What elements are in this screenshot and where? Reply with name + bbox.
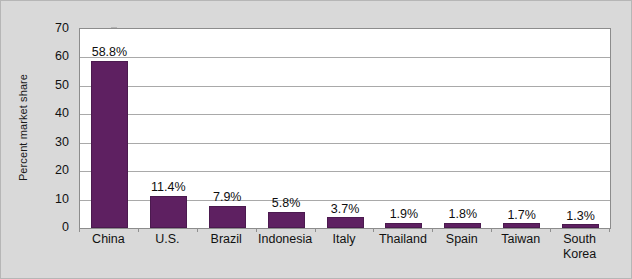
y-axis-tick-labels: 010203040506070 <box>41 28 69 227</box>
bar[interactable] <box>327 217 364 228</box>
bar-series: 58.8%11.4%7.9%5.8%3.7%1.9%1.8%1.7%1.3% <box>80 29 610 228</box>
y-axis-tick-label: 70 <box>41 22 69 35</box>
x-axis-category-label: South Korea <box>550 232 609 274</box>
plot-area: 58.8%11.4%7.9%5.8%3.7%1.9%1.8%1.7%1.3% <box>79 28 611 229</box>
y-axis-tick-label: 40 <box>41 107 69 120</box>
x-axis-category-label: Spain <box>432 232 491 274</box>
bar-value-label: 3.7% <box>331 203 360 216</box>
x-axis-category-label: Thailand <box>373 232 432 274</box>
x-axis-category-label: China <box>79 232 138 274</box>
bar-slot[interactable]: 58.8% <box>80 29 139 228</box>
bar-slot[interactable]: 1.8% <box>433 29 492 228</box>
y-axis-tick-label: 20 <box>41 164 69 177</box>
bar-value-label: 11.4% <box>151 181 186 194</box>
bar[interactable] <box>91 61 128 228</box>
x-axis-category-label: Italy <box>315 232 374 274</box>
bar-value-label: 5.8% <box>272 197 301 210</box>
y-axis-tick-label: 30 <box>41 135 69 148</box>
bar-value-label: 58.8% <box>92 46 127 59</box>
x-axis-category-label: Indonesia <box>256 232 315 274</box>
bar-value-label: 1.7% <box>507 209 536 222</box>
x-axis-category-label: U.S. <box>138 232 197 274</box>
bar-value-label: 1.3% <box>566 210 595 223</box>
x-axis-category-labels: ChinaU.S.BrazilIndonesiaItalyThailandSpa… <box>79 232 609 274</box>
bar[interactable] <box>268 212 305 228</box>
bar-slot[interactable]: 11.4% <box>139 29 198 228</box>
bar[interactable] <box>209 206 246 228</box>
y-axis-tick-label: 50 <box>41 79 69 92</box>
bar-slot[interactable]: 3.7% <box>316 29 375 228</box>
bar[interactable] <box>150 196 187 228</box>
bar-value-label: 7.9% <box>213 191 242 204</box>
bar-slot[interactable]: 1.9% <box>374 29 433 228</box>
bar-value-label: 1.9% <box>390 208 419 221</box>
bar-slot[interactable]: 7.9% <box>198 29 257 228</box>
bar-slot[interactable]: 5.8% <box>257 29 316 228</box>
y-axis-title: Percent market share <box>15 28 31 227</box>
y-axis-tick-label: 0 <box>41 221 69 234</box>
bar-value-label: 1.8% <box>449 208 478 221</box>
y-axis-tick-label: 10 <box>41 192 69 205</box>
bar-slot[interactable]: 1.7% <box>492 29 551 228</box>
chart-figure: Percent market share 010203040506070 58.… <box>0 0 632 279</box>
x-axis-category-label: Taiwan <box>491 232 550 274</box>
bar-slot[interactable]: 1.3% <box>551 29 610 228</box>
x-axis-tick-mark <box>609 228 610 232</box>
x-axis-category-label: Brazil <box>197 232 256 274</box>
y-axis-tick-label: 60 <box>41 50 69 63</box>
